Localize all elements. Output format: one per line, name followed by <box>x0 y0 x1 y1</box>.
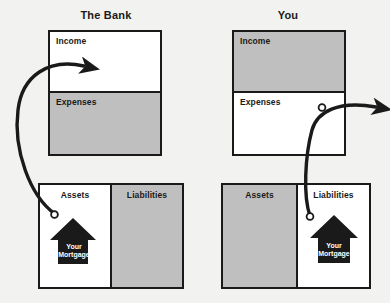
you-liabilities-cell: Liabilities <box>298 185 369 287</box>
bank-mortgage-house-label: Your Mortgage <box>52 243 96 259</box>
you-income-cell: Income <box>234 32 344 91</box>
panel-title-bank: The Bank <box>50 9 162 21</box>
bank-assets-cell: Assets <box>40 185 110 287</box>
bank-mortgage-label-line1: Your <box>52 243 96 251</box>
you-mortgage-label-line2: Mortgage <box>312 250 356 258</box>
you-income-statement-box: Income Expenses <box>232 30 346 156</box>
bank-expenses-cell: Expenses <box>50 93 160 154</box>
bank-income-cell: Income <box>50 32 160 91</box>
you-mortgage-house-label: Your Mortgage <box>312 242 356 258</box>
bank-liabilities-label: Liabilities <box>112 190 182 200</box>
panel-title-you: You <box>232 9 344 21</box>
bank-mortgage-label-line2: Mortgage <box>52 251 96 259</box>
you-balance-sheet-box: Assets Liabilities <box>221 183 371 289</box>
bank-income-statement-box: Income Expenses <box>48 30 162 156</box>
bank-balance-sheet-box: Assets Liabilities <box>38 183 184 289</box>
you-assets-cell: Assets <box>223 185 296 287</box>
you-liabilities-label: Liabilities <box>298 190 369 200</box>
you-income-label: Income <box>240 36 270 46</box>
diagram-canvas: The Bank Income Expenses Assets Liabilit… <box>0 0 390 303</box>
bank-liabilities-cell: Liabilities <box>112 185 182 287</box>
bank-expenses-label: Expenses <box>56 97 97 107</box>
you-mortgage-label-line1: Your <box>312 242 356 250</box>
bank-assets-label: Assets <box>40 190 110 200</box>
you-expenses-label: Expenses <box>240 97 281 107</box>
you-expenses-cell: Expenses <box>234 93 344 154</box>
bank-income-label: Income <box>56 36 86 46</box>
you-assets-label: Assets <box>223 190 296 200</box>
